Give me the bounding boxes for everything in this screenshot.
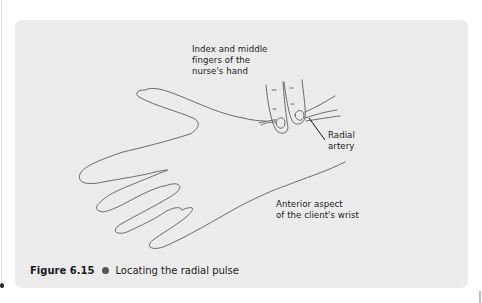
figure-title: Locating the radial pulse bbox=[115, 265, 239, 276]
label-anterior-wrist: Anterior aspect of the client's wrist bbox=[276, 199, 359, 221]
client-upper-wrist bbox=[243, 118, 265, 121]
margin-bullet-icon bbox=[0, 283, 4, 288]
client-thumb-outline bbox=[79, 88, 243, 183]
caption-bullet-icon bbox=[102, 267, 109, 274]
nurse-middle-nail bbox=[295, 111, 304, 121]
nurse-index-nail bbox=[276, 118, 285, 129]
nurse-hand-line-1 bbox=[305, 96, 335, 112]
figure-caption: Figure 6.15Locating the radial pulse bbox=[30, 265, 239, 276]
figure-number: Figure 6.15 bbox=[30, 265, 94, 276]
figure-panel: Index and middle fingers of the nurse's … bbox=[15, 20, 468, 288]
client-index-finger bbox=[96, 170, 167, 212]
label-nurse-fingers: Index and middle fingers of the nurse's … bbox=[192, 44, 267, 77]
page-margin-rule bbox=[1, 0, 2, 282]
artery-leader-line bbox=[309, 118, 325, 140]
page-corner-mark bbox=[479, 291, 481, 303]
nurse-middle-finger bbox=[284, 80, 305, 124]
label-radial-artery: Radial artery bbox=[328, 130, 355, 152]
